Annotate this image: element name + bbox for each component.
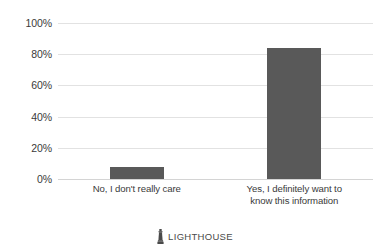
y-tick-label-80: 80%: [6, 49, 52, 60]
y-tick-label-20: 20%: [6, 143, 52, 154]
y-tick-label-40: 40%: [6, 112, 52, 123]
axis-baseline: [58, 179, 373, 180]
x-tick-label-0: No, I don't really care: [58, 183, 216, 195]
x-tick-label-1: Yes, I definitely want to know this info…: [216, 183, 374, 206]
bar-chart-figure: 100% 80% 60% 40% 20% 0% No, I don't real…: [0, 0, 389, 248]
y-tick-label-0: 0%: [6, 174, 52, 185]
y-axis: 100% 80% 60% 40% 20% 0%: [0, 23, 52, 179]
bar-yes-want-info: [267, 48, 321, 179]
lighthouse-icon: [156, 229, 165, 244]
x-tick-group-0: No, I don't really care: [58, 183, 216, 217]
bar-no-dont-care: [110, 167, 164, 179]
bars-layer: [58, 23, 373, 179]
y-tick-label-100: 100%: [6, 18, 52, 29]
x-tick-group-1: Yes, I definitely want to know this info…: [216, 183, 374, 217]
chart-footer: LIGHTHOUSE: [0, 224, 389, 248]
brand-name: LIGHTHOUSE: [168, 231, 233, 242]
x-axis: No, I don't really care Yes, I definitel…: [58, 183, 373, 217]
y-tick-label-60: 60%: [6, 80, 52, 91]
